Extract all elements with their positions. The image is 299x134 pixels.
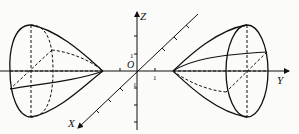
origin-label: O — [127, 59, 134, 70]
y-tick-label: 1 — [153, 74, 157, 82]
z-axis-label: Z — [140, 10, 147, 22]
neg-z-tick-label: 1 — [133, 81, 137, 89]
hyperboloid-diagram: Z O 1 1 1 Y X — [0, 0, 299, 134]
y-axis-label: Y — [277, 74, 285, 86]
z-tick-label: 1 — [130, 52, 134, 60]
x-axis-label: X — [67, 117, 76, 129]
